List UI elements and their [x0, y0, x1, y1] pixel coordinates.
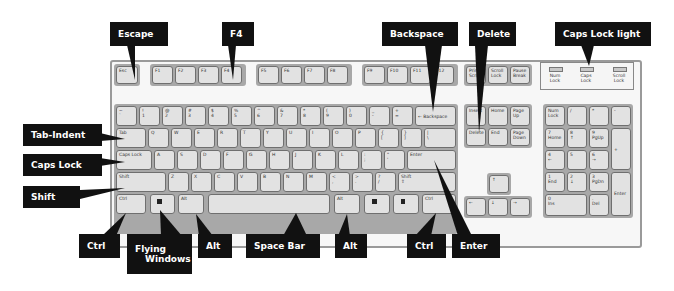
callout-flying-windows: Flying Windows	[127, 234, 192, 274]
callout-f4: F4	[222, 22, 254, 46]
pointer-alt-right	[338, 214, 350, 236]
pointer-tab-indent	[100, 133, 125, 141]
callout-space-bar: Space Bar	[246, 234, 320, 258]
callout-ctrl-left: Ctrl	[79, 234, 120, 258]
callout-shift: Shift	[23, 186, 80, 208]
pointer-enter	[434, 160, 472, 236]
callout-enter: Enter	[452, 234, 500, 258]
pointer-delete	[475, 45, 488, 133]
pointer-ctrl-left	[102, 213, 126, 236]
pointer-backspace	[425, 45, 442, 112]
pointer-caps-lock	[100, 158, 125, 166]
pointer-shift	[80, 188, 125, 199]
callout-backspace: Backspace	[382, 22, 458, 46]
callout-delete: Delete	[469, 22, 516, 46]
pointer-caps-lock-light	[581, 45, 594, 66]
callout-alt-left: Alt	[198, 234, 232, 258]
pointer-ctrl-right	[415, 213, 436, 236]
callout-tab-indent: Tab-Indent	[23, 124, 102, 146]
callout-flying-windows-line2: Windows	[135, 254, 191, 264]
callout-escape: Escape	[110, 22, 168, 46]
pointer-flying-windows	[160, 210, 182, 236]
callout-ctrl-right: Ctrl	[407, 234, 446, 258]
pointer-space-bar	[283, 213, 307, 236]
pointer-alt-left	[196, 214, 213, 236]
callout-alt-right: Alt	[335, 234, 367, 258]
callout-caps-lock-light: Caps Lock light	[555, 22, 651, 46]
pointer-escape	[127, 45, 135, 80]
callout-caps-lock: Caps Lock	[23, 154, 102, 176]
callout-flying-windows-line1: Flying	[135, 244, 166, 254]
pointer-f4	[228, 45, 236, 80]
